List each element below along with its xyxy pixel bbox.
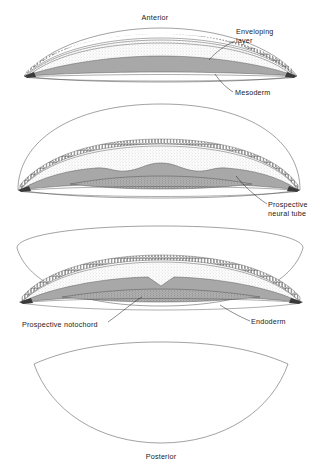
label-prospective-notochord: Prospective notochord xyxy=(22,320,98,329)
leader-endoderm xyxy=(220,305,250,321)
label-mesoderm: Mesoderm xyxy=(235,88,271,97)
embryo-germ-layer-diagram: Anterior Enveloping layer Mesoderm Prosp… xyxy=(0,0,323,470)
panel-3: Prospective notochord Endoderm xyxy=(17,226,303,329)
label-endoderm: Endoderm xyxy=(251,317,286,326)
label-enveloping-layer-line2: layer xyxy=(236,36,253,45)
panel-4-shell-outline xyxy=(34,342,288,443)
figure-root: Anterior Enveloping layer Mesoderm Prosp… xyxy=(0,0,323,470)
label-prospective-neural-tube-line2: neural tube xyxy=(268,209,306,218)
panel-1-anterior: Anterior Enveloping layer Mesoderm xyxy=(24,13,297,97)
label-enveloping-layer-line1: Enveloping xyxy=(236,27,274,36)
label-prospective-neural-tube-line1: Prospective xyxy=(268,200,308,209)
panel-4-posterior: Posterior xyxy=(34,342,288,461)
label-posterior: Posterior xyxy=(146,452,177,461)
label-anterior: Anterior xyxy=(142,13,169,22)
panel-2: Prospective neural tube xyxy=(18,104,308,218)
